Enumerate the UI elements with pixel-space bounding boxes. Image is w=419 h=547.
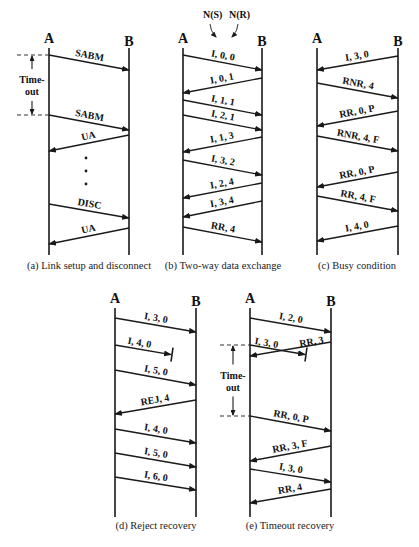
station-a-label: A: [312, 31, 323, 46]
field-annotation: N(R): [229, 9, 250, 37]
message-arrow: I, 2, 1: [183, 107, 262, 130]
message-label: I, 3, 0: [143, 310, 168, 325]
message-arrow: RNR, 4, F: [317, 127, 398, 151]
message-arrow: RR, 3, F: [250, 437, 331, 461]
station-b-label: B: [124, 34, 133, 49]
field-annotation: N(S): [203, 9, 222, 37]
timeout-label: Time-: [19, 74, 44, 85]
message-arrow: I, 4, 0: [115, 335, 173, 362]
message-arrow: RR, 0, P: [317, 102, 398, 126]
message-label: RR, 0, P: [338, 102, 375, 119]
timeout-label: out: [25, 86, 40, 97]
timeout-label: Time-: [220, 370, 245, 381]
message-arrow: I, 4, 0: [317, 218, 398, 241]
timeout-interval: Time-out: [17, 55, 49, 115]
annotation-label: N(S): [203, 9, 222, 21]
panel-caption: (c) Busy condition: [318, 260, 397, 272]
sequence-diagram-svg: ABSABMSABMUADISCUATime-out(a) Link setup…: [0, 0, 419, 547]
panel-d: ABI, 3, 0I, 4, 0I, 5, 0REJ, 4I, 4, 0I, 5…: [110, 291, 201, 532]
message-arrow: I, 3, 0: [115, 310, 196, 332]
message-arrow: DISC: [49, 196, 129, 218]
message-arrow: I, 2, 4: [183, 175, 262, 198]
message-arrow: RR, 4: [183, 219, 262, 242]
ellipsis-dot: [85, 170, 88, 173]
message-label: DISC: [77, 196, 102, 211]
timeout-label: out: [226, 382, 241, 393]
station-b-label: B: [326, 294, 335, 309]
message-arrow: REJ, 4: [115, 392, 196, 414]
message-arrow: I, 5, 0: [115, 362, 196, 385]
message-label: RNR, 4, F: [336, 127, 380, 146]
message-arrow: RR, 0, P: [250, 407, 331, 431]
message-label: I, 4, 0: [143, 421, 168, 436]
annotation-pointer-icon: [232, 24, 238, 37]
message-arrow: I, 0, 1: [183, 70, 262, 93]
message-arrow: I, 6, 0: [115, 469, 196, 490]
message-arrow: I, 4, 0: [115, 421, 196, 443]
panel-caption: (b) Two-way data exchange: [165, 260, 282, 272]
annotation-pointer-icon: [210, 24, 216, 37]
message-label: RR, 0, P: [273, 407, 310, 424]
message-arrow: RR, 0, P: [317, 163, 398, 187]
message-label: I, 6, 0: [143, 469, 168, 484]
message-arrow: SABM: [49, 107, 129, 130]
message-arrow: SABM: [49, 47, 129, 70]
station-b-label: B: [191, 294, 200, 309]
lost-frame-bar-icon: [171, 348, 173, 362]
message-label: I, 3, 0: [344, 48, 369, 63]
station-a-label: A: [44, 31, 55, 46]
message-label: RR, 3, F: [271, 437, 308, 454]
hdlc-operation-figure: ABSABMSABMUADISCUATime-out(a) Link setup…: [0, 0, 419, 547]
message-arrow: I, 3, 0: [317, 48, 398, 70]
message-arrow: RR, 4: [250, 481, 331, 503]
message-arrow: I, 2, 0: [250, 310, 331, 332]
timeout-interval: Time-out: [220, 345, 250, 416]
message-label: I, 2, 0: [278, 310, 303, 325]
message-arrow: I, 3, 0: [250, 461, 331, 482]
message-arrow: I, 0, 0: [183, 47, 262, 70]
message-arrow: UA: [49, 222, 129, 244]
panel-caption: (a) Link setup and disconnect: [27, 260, 151, 272]
panel-e: ABI, 2, 0I, 3, 0RR, 3RR, 0, PRR, 3, FI, …: [220, 291, 336, 532]
station-b-label: B: [257, 34, 266, 49]
panel-caption: (e) Timeout recovery: [246, 520, 335, 532]
message-label: RR, 4, F: [340, 187, 377, 204]
message-arrow: UA: [49, 129, 129, 151]
message-arrow: I, 3, 4: [183, 194, 262, 217]
message-label: RR, 3: [298, 334, 324, 349]
lost-frame-bar-icon: [305, 348, 307, 362]
message-label: UA: [80, 129, 97, 143]
message-label: I, 5, 0: [143, 445, 168, 460]
ellipsis-dot: [85, 183, 88, 186]
station-a-label: A: [178, 31, 189, 46]
message-label: RR, 4: [277, 481, 303, 496]
message-arrow: I, 1, 3: [183, 129, 262, 152]
station-a-label: A: [110, 291, 121, 306]
panel-c: ABI, 3, 0RNR, 4RR, 0, PRNR, 4, FRR, 0, P…: [312, 31, 403, 272]
message-arrow: RR, 4, F: [317, 187, 398, 211]
station-a-label: A: [245, 291, 256, 306]
message-label: RR, 0, P: [338, 163, 375, 180]
ellipsis-dot: [85, 157, 88, 160]
station-b-label: B: [393, 34, 402, 49]
message-label: UA: [80, 222, 97, 236]
panel-caption: (d) Reject recovery: [115, 520, 197, 532]
panel-b: ABI, 0, 0I, 0, 1I, 1, 1I, 2, 1I, 1, 3I, …: [165, 9, 282, 272]
panels-group: ABSABMSABMUADISCUATime-out(a) Link setup…: [17, 9, 403, 532]
message-arrow: I, 5, 0: [115, 445, 196, 467]
message-arrow: I, 3, 2: [183, 152, 262, 175]
message-label: I, 3, 0: [278, 461, 303, 476]
annotation-label: N(R): [229, 9, 250, 21]
message-arrow: RNR, 4: [317, 75, 398, 98]
panel-a: ABSABMSABMUADISCUATime-out(a) Link setup…: [17, 31, 151, 272]
message-label: I, 3, 0: [254, 335, 279, 350]
